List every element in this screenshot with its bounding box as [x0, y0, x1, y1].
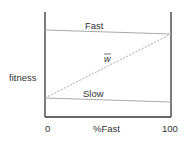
- fast-line: [45, 30, 171, 34]
- wbar-text: w: [104, 54, 111, 64]
- x-axis-label: %Fast: [93, 123, 120, 134]
- slow-line: [45, 98, 171, 102]
- x-tick-100: 100: [162, 123, 178, 134]
- y-axis-label: fitness: [9, 72, 37, 83]
- wbar-label: w: [104, 54, 111, 64]
- fast-label: Fast: [85, 20, 104, 31]
- mean-fitness-line: [45, 34, 171, 98]
- slow-label: Slow: [83, 88, 104, 99]
- x-tick-0: 0: [45, 123, 50, 134]
- fitness-chart: Fast Slow w fitness 0 %Fast 100: [0, 0, 188, 153]
